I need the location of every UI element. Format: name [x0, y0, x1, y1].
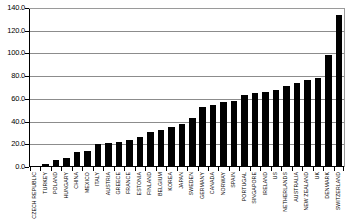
bar-slot: [61, 8, 71, 167]
y-axis-tick-mark: [25, 144, 29, 145]
bar-slot: [145, 8, 155, 167]
bar-slot: [271, 8, 281, 167]
bar: [199, 107, 205, 167]
bar-slot: [323, 8, 333, 167]
x-axis-tick-mark: [103, 167, 113, 171]
x-axis-tick-mark: [323, 167, 333, 171]
bar-slot: [177, 8, 187, 167]
x-axis-label-slot: CHINA: [72, 172, 82, 224]
x-axis-label-slot: NETHERLANDS: [281, 172, 291, 224]
bar: [84, 151, 90, 167]
x-axis-tick-label: FRANCE: [127, 172, 132, 194]
x-axis-tick-label: AUSTRIA: [106, 172, 111, 195]
x-axis-tick-label: US: [273, 172, 278, 179]
x-axis-tick-mark: [218, 167, 228, 171]
x-axis-tick-mark: [61, 167, 71, 171]
x-axis-tick-mark: [72, 167, 82, 171]
y-axis-tick-mark: [25, 31, 29, 32]
x-axis-label-slot: CANADA: [208, 172, 218, 224]
x-axis-tick-mark: [250, 167, 260, 171]
x-axis-tick-label: SWEDEN: [190, 172, 195, 195]
y-axis-tick-label: 0.0: [15, 163, 25, 171]
bar: [158, 130, 164, 167]
bar-slot: [30, 8, 40, 167]
bar: [294, 83, 300, 167]
bar-slot: [187, 8, 197, 167]
y-axis-tick-mark: [25, 53, 29, 54]
bar-slot: [239, 8, 249, 167]
bar: [105, 143, 111, 167]
x-axis-tick-label: GERMANY: [200, 172, 205, 199]
x-axis-tick-label: NORWAY: [221, 172, 226, 195]
x-axis-tick-label: TURKEY: [43, 172, 48, 194]
x-axis-tick-label: GREECE: [116, 172, 121, 195]
bar-slot: [72, 8, 82, 167]
x-axis-tick-label: ESTONIA: [137, 172, 142, 195]
x-axis-label-slot: PORTUGAL: [239, 172, 249, 224]
x-axis-tick-mark: [135, 167, 145, 171]
x-axis-tick-mark: [281, 167, 291, 171]
x-axis-tick-mark: [187, 167, 197, 171]
x-axis-tick-label: KOREA: [169, 172, 174, 191]
y-axis-labels: 140.0120.0100.080.060.040.020.00.0: [0, 0, 27, 224]
bar: [137, 137, 143, 167]
x-axis-tick-mark: [260, 167, 270, 171]
x-axis-tick-mark: [156, 167, 166, 171]
bar: [63, 158, 69, 167]
bar-slot: [281, 8, 291, 167]
x-axis-tick-mark: [166, 167, 176, 171]
x-axis-label-slot: US: [271, 172, 281, 224]
bar: [315, 78, 321, 167]
bar: [210, 105, 216, 167]
x-axis-labels: CZECH REPUBLICTURKEYPOLANDHUNGARYCHINAME…: [30, 172, 344, 224]
x-axis-tick-label: SWITZERLAND: [336, 172, 341, 210]
bar: [231, 101, 237, 167]
bar-slot: [51, 8, 61, 167]
x-axis-label-slot: SPAIN: [229, 172, 239, 224]
x-axis-tick-label: SPAIN: [231, 172, 236, 188]
x-axis-tick-mark: [208, 167, 218, 171]
bar: [179, 124, 185, 167]
bar: [336, 15, 342, 167]
bar-slot: [208, 8, 218, 167]
bar-slot: [166, 8, 176, 167]
y-axis-tick-label: 40.0: [11, 118, 25, 126]
bar-slot: [198, 8, 208, 167]
x-axis-label-slot: ESTONIA: [135, 172, 145, 224]
x-axis-tick-mark: [334, 167, 344, 171]
x-axis-tick-label: JAPAN: [179, 172, 184, 189]
bar: [126, 140, 132, 167]
x-axis-tick-mark: [114, 167, 124, 171]
bar-slot: [82, 8, 92, 167]
x-axis-label-slot: GREECE: [114, 172, 124, 224]
bar-slot: [103, 8, 113, 167]
y-axis-tick-label: 60.0: [11, 95, 25, 103]
x-axis-label-slot: MEXICO: [82, 172, 92, 224]
x-axis-tick-label: MEXICO: [85, 172, 90, 193]
y-axis-tick-mark: [25, 76, 29, 77]
bar: [147, 132, 153, 167]
bar-slot: [292, 8, 302, 167]
x-axis-tick-label: AUSTRALIA: [294, 172, 299, 202]
bar: [220, 102, 226, 167]
bar-slot: [250, 8, 260, 167]
bar: [116, 142, 122, 167]
bar-slot: [334, 8, 344, 167]
bar-slot: [218, 8, 228, 167]
x-axis-label-slot: ITALY: [93, 172, 103, 224]
x-axis-label-slot: CZECH REPUBLIC: [30, 172, 40, 224]
plot-frame-right: [344, 8, 345, 167]
x-axis-label-slot: KOREA: [166, 172, 176, 224]
bar: [262, 92, 268, 167]
bar: [95, 144, 101, 167]
x-axis-label-slot: TURKEY: [40, 172, 50, 224]
y-axis-tick-label: 20.0: [11, 140, 25, 148]
x-axis-tick-label: DENMARK: [326, 172, 331, 199]
y-axis-tick-mark: [25, 167, 29, 168]
x-axis-tick-mark: [145, 167, 155, 171]
x-axis-label-slot: BELGIUM: [156, 172, 166, 224]
bar-slot: [229, 8, 239, 167]
x-axis-label-slot: JAPAN: [177, 172, 187, 224]
bar-slot: [114, 8, 124, 167]
x-axis-tick-label: POLAND: [53, 172, 58, 194]
